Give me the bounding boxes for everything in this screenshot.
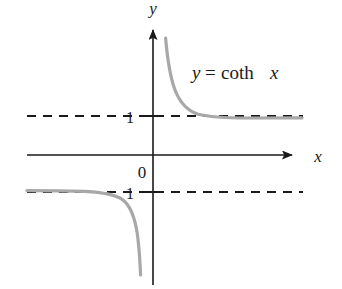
y-tick-label-negative-one: 1 bbox=[126, 185, 134, 202]
x-axis-label: x bbox=[313, 147, 322, 166]
curve-equation-function: coth bbox=[221, 62, 254, 83]
y-tick-label-positive-one: 1 bbox=[126, 109, 134, 126]
plot-background bbox=[0, 0, 342, 289]
y-axis-label: y bbox=[147, 0, 157, 18]
curve-equation-x: x bbox=[269, 62, 279, 83]
curve-equation-equals: = bbox=[205, 62, 216, 83]
coth-graph-svg: 1 1 0 x y y = coth x bbox=[0, 0, 342, 289]
curve-equation-y: y bbox=[190, 62, 201, 83]
origin-label: 0 bbox=[138, 163, 147, 182]
coth-graph-figure: 1 1 0 x y y = coth x bbox=[0, 0, 342, 289]
